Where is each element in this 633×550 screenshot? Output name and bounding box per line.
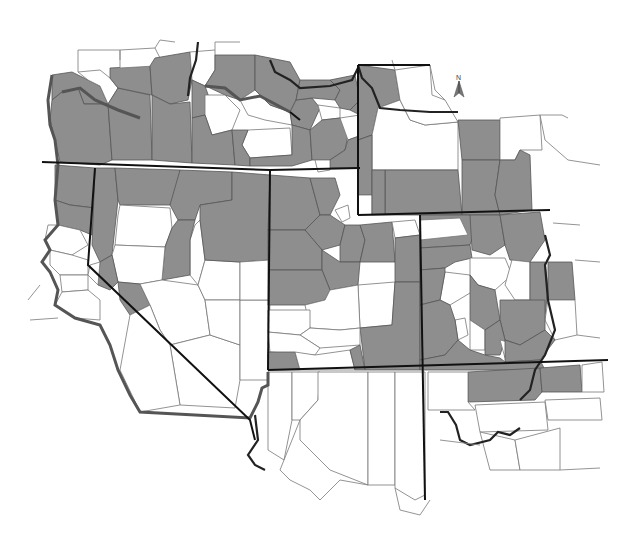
west-region-counties	[45, 165, 270, 412]
north-region-counties	[50, 48, 362, 172]
wyoming-region-counties	[358, 65, 542, 215]
north-label: N	[456, 74, 461, 81]
map-canvas	[0, 0, 633, 550]
south-region-counties	[428, 362, 604, 470]
colorado-region-counties	[420, 212, 577, 370]
county-map: N	[0, 0, 633, 550]
north-arrow: N	[452, 74, 466, 100]
north-arrow-icon	[452, 81, 466, 101]
